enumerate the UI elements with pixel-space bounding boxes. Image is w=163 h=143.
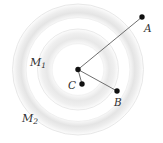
label-point-a: A: [144, 23, 152, 34]
label-mass-inner: M1: [30, 57, 46, 68]
point-center: [75, 67, 80, 72]
label-mass-outer-subscript: 2: [33, 117, 38, 126]
label-mass-outer-symbol: M: [22, 112, 33, 125]
point-a: [139, 14, 144, 19]
label-mass-outer: M2: [22, 113, 38, 124]
label-mass-inner-symbol: M: [30, 56, 41, 69]
point-c: [79, 81, 84, 86]
label-point-c: C: [68, 80, 76, 91]
label-point-b: B: [114, 97, 122, 108]
label-mass-inner-subscript: 1: [41, 61, 46, 70]
concentric-shells-diagram: M1 M2 A B C: [0, 0, 163, 143]
point-b: [114, 88, 119, 93]
